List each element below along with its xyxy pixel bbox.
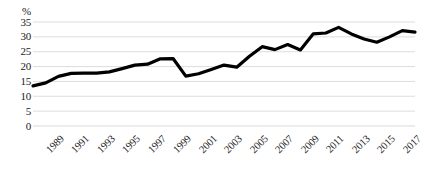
y-axis-tick-label: 5 bbox=[11, 106, 31, 117]
x-axis-tick-label: 2013 bbox=[350, 133, 372, 155]
x-axis-tick-label: 1999 bbox=[171, 133, 193, 155]
x-axis-tick-label: 2005 bbox=[248, 133, 270, 155]
x-axis-tick-label: 2009 bbox=[299, 133, 321, 155]
x-axis-tick-label: 2007 bbox=[273, 133, 295, 155]
y-axis-tick-label: 10 bbox=[11, 91, 31, 102]
y-axis-tick-label: 0 bbox=[11, 121, 31, 132]
x-axis-tick-label: 2011 bbox=[324, 133, 346, 155]
x-axis-tick-label: 2001 bbox=[197, 133, 219, 155]
x-axis-tick-label: 1995 bbox=[120, 133, 142, 155]
x-axis-tick-label: 1991 bbox=[69, 133, 91, 155]
x-axis-tick-label: 2003 bbox=[222, 133, 244, 155]
series-polyline bbox=[33, 27, 415, 86]
data-series-line bbox=[33, 22, 415, 126]
y-axis-tick-label: 15 bbox=[11, 76, 31, 87]
y-axis-tick-label: 25 bbox=[11, 46, 31, 57]
y-axis-tick-label: 35 bbox=[11, 17, 31, 28]
y-axis-tick-label: 30 bbox=[11, 31, 31, 42]
x-axis-tick-label: 2017 bbox=[400, 133, 422, 155]
plot-area bbox=[33, 22, 415, 126]
x-axis-tick-label: 1993 bbox=[95, 133, 117, 155]
line-chart: % 35302520151050 19891991199319951997199… bbox=[0, 0, 425, 187]
y-axis-tick-label: 20 bbox=[11, 61, 31, 72]
x-axis-tick-label: 2015 bbox=[375, 133, 397, 155]
x-axis-tick-label: 1997 bbox=[146, 133, 168, 155]
x-axis-tick-label: 1989 bbox=[44, 133, 66, 155]
